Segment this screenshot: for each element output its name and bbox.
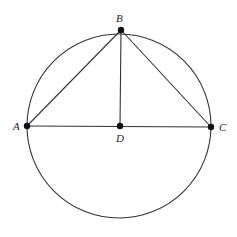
point-c bbox=[208, 124, 214, 130]
label-d: D bbox=[115, 132, 124, 144]
point-b bbox=[118, 27, 124, 33]
label-b: B bbox=[116, 12, 123, 24]
geometry-diagram: A B C D bbox=[0, 0, 237, 237]
diagram-svg: A B C D bbox=[0, 0, 237, 237]
point-a bbox=[24, 123, 30, 129]
segment-bd-altitude bbox=[120, 30, 121, 126]
label-a: A bbox=[12, 120, 20, 132]
label-c: C bbox=[219, 121, 227, 133]
point-d bbox=[117, 123, 123, 129]
